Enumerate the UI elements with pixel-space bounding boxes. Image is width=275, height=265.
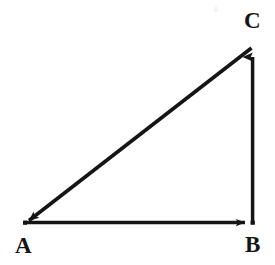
vector-CA bbox=[29, 48, 252, 221]
vertex-label-a: A bbox=[15, 234, 32, 257]
vector-triangle-figure: A B C bbox=[0, 0, 275, 265]
vertex-label-c: C bbox=[244, 9, 261, 32]
scan-speck-artifact bbox=[214, 7, 218, 12]
triangle-canvas bbox=[0, 0, 275, 265]
corner-joint-B bbox=[251, 221, 255, 225]
corner-joint-A bbox=[23, 221, 27, 225]
vertex-label-b: B bbox=[245, 233, 260, 256]
